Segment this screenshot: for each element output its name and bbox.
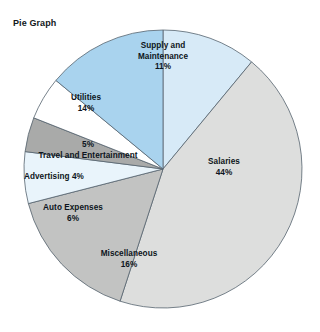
slice-label-utilities-text: Utilities <box>71 93 101 102</box>
slice-percent-travel: 5% <box>14 140 162 151</box>
slice-label-auto-expenses-text: Auto Expenses <box>43 203 103 212</box>
slice-label-supply-and-maintenance: Supply and Maintenance 11% <box>119 41 207 73</box>
pie-chart-figure: Pie Graph Supply and Maintenance 11% Sal… <box>0 0 320 332</box>
slice-label-travel-text: Travel and Entertainment <box>38 151 137 160</box>
slice-percent-salaries: 44% <box>186 168 262 179</box>
slice-label-travel-and-entertainment: 5% Travel and Entertainment <box>14 140 162 161</box>
slice-label-miscellaneous: Miscellaneous 16% <box>78 249 180 270</box>
slice-percent-advertising: 4% <box>72 172 84 181</box>
slice-percent-auto-expenses: 6% <box>22 214 124 225</box>
slice-label-supply-line2: Maintenance <box>138 52 188 61</box>
slice-label-utilities: Utilities 14% <box>50 93 122 114</box>
slice-percent-miscellaneous: 16% <box>78 260 180 271</box>
slice-label-auto-expenses: Auto Expenses 6% <box>22 203 124 224</box>
slice-label-advertising: Advertising 4% <box>24 172 128 183</box>
slice-label-salaries-text: Salaries <box>208 157 240 166</box>
slice-percent-supply: 11% <box>119 62 207 73</box>
slice-label-miscellaneous-text: Miscellaneous <box>101 249 158 258</box>
slice-label-salaries: Salaries 44% <box>186 157 262 178</box>
slice-percent-utilities: 14% <box>50 104 122 115</box>
slice-label-supply-line1: Supply and <box>141 41 186 50</box>
slice-label-advertising-text: Advertising <box>24 172 70 181</box>
